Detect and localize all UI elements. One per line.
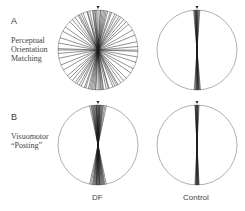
orientation-figure xyxy=(0,0,245,211)
orientation-circle-a-control xyxy=(157,6,237,90)
orientation-circle-b-df xyxy=(58,101,138,185)
target-marker-icon xyxy=(97,6,100,9)
target-marker-icon xyxy=(196,6,199,9)
orientation-circle-a-df xyxy=(58,6,138,90)
orientation-circle-b-control xyxy=(157,101,237,185)
target-marker-icon xyxy=(97,101,100,104)
target-marker-icon xyxy=(196,101,199,104)
